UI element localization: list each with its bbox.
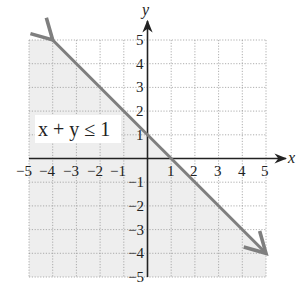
svg-text:5: 5: [261, 163, 269, 179]
svg-text:−2: −2: [87, 163, 103, 179]
svg-text:1: 1: [136, 127, 144, 143]
svg-text:−3: −3: [128, 222, 144, 238]
svg-text:−4: −4: [128, 245, 144, 261]
svg-text:4: 4: [136, 56, 144, 72]
svg-text:4: 4: [238, 163, 246, 179]
svg-text:−5: −5: [128, 269, 144, 285]
x-axis-label: x: [287, 149, 295, 166]
svg-text:1: 1: [167, 163, 175, 179]
svg-text:2: 2: [190, 163, 198, 179]
svg-text:−3: −3: [63, 163, 79, 179]
svg-text:2: 2: [136, 103, 144, 119]
svg-text:−4: −4: [39, 163, 55, 179]
svg-text:5: 5: [136, 32, 144, 48]
svg-text:3: 3: [136, 79, 144, 95]
inequality-graph: x + y ≤ 1 x y −5 −4 −3 −2 −1 1 2 3 4 5 5…: [0, 0, 307, 296]
svg-text:3: 3: [214, 163, 222, 179]
svg-text:−1: −1: [128, 174, 144, 190]
svg-text:−1: −1: [110, 163, 126, 179]
svg-text:−5: −5: [16, 163, 32, 179]
inequality-label: x + y ≤ 1: [38, 118, 110, 141]
y-axis-label: y: [140, 1, 150, 19]
svg-text:−2: −2: [128, 198, 144, 214]
